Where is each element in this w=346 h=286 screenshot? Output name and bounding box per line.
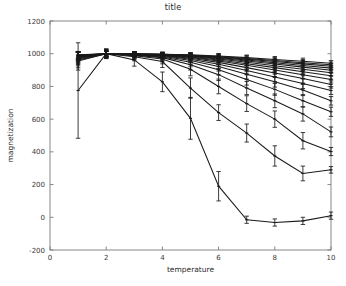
svg-text:10: 10 bbox=[327, 254, 336, 262]
svg-text:2: 2 bbox=[104, 254, 108, 262]
svg-text:1200: 1200 bbox=[27, 18, 45, 26]
svg-text:0: 0 bbox=[41, 214, 45, 222]
y-axis-label: magnetization bbox=[6, 108, 15, 162]
plot-area: 0246810-200020040060080010001200 tempera… bbox=[0, 0, 346, 286]
svg-text:800: 800 bbox=[32, 83, 45, 91]
data-series bbox=[76, 49, 333, 181]
x-axis-label: temperature bbox=[167, 265, 215, 274]
svg-text:4: 4 bbox=[160, 254, 165, 262]
svg-text:-200: -200 bbox=[29, 247, 45, 255]
svg-text:6: 6 bbox=[216, 254, 221, 262]
svg-text:200: 200 bbox=[32, 181, 45, 189]
svg-text:1000: 1000 bbox=[27, 50, 45, 58]
svg-text:400: 400 bbox=[32, 148, 45, 156]
data-series-group bbox=[76, 43, 333, 226]
svg-text:8: 8 bbox=[273, 254, 277, 262]
svg-text:0: 0 bbox=[48, 254, 52, 262]
svg-text:600: 600 bbox=[32, 116, 45, 124]
figure-canvas: title 0246810-200020040060080010001200 t… bbox=[0, 0, 346, 286]
